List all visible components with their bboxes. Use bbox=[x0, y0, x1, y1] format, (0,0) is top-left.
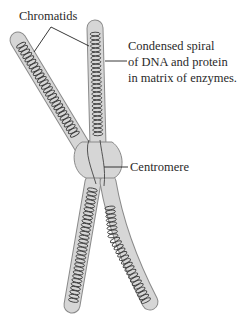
chromatid-left-upper-arm bbox=[18, 40, 82, 146]
label-chromatids: Chromatids bbox=[19, 8, 77, 24]
label-spiral-line-3: in matrix of enzymes. bbox=[128, 70, 237, 86]
label-spiral-line-1: Condensed spiral bbox=[128, 38, 214, 54]
label-centromere: Centromere bbox=[130, 159, 189, 175]
label-spiral-line-2: of DNA and protein bbox=[128, 54, 228, 70]
